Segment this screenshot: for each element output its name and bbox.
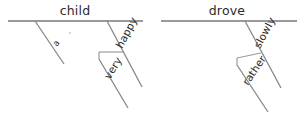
- right-diagram-group: drove slowly rather: [161, 3, 297, 112]
- left-submodifier-label-very: very: [101, 55, 123, 81]
- right-headword-label: drove: [209, 3, 246, 18]
- left-diagram-group: child a happy very: [8, 3, 143, 108]
- sentence-diagram-figure: child a happy very drove slowly rather: [0, 0, 305, 124]
- diagram-canvas: child a happy very drove slowly rather: [0, 0, 305, 124]
- left-headword-label: child: [60, 3, 91, 18]
- scan-speck: [69, 32, 71, 34]
- right-submodifier-label-rather: rather: [240, 53, 269, 87]
